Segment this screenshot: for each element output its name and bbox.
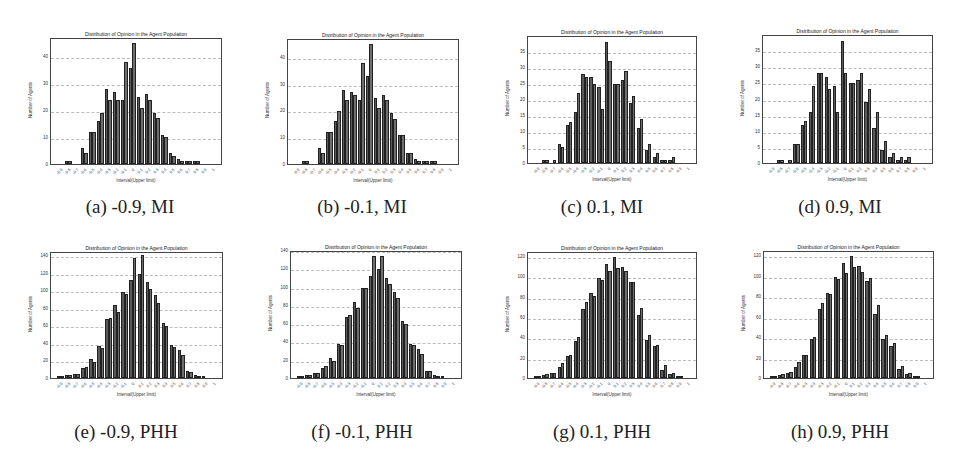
bar [348,315,351,379]
y-axis-label: Number of Agents [265,82,270,118]
bar [433,161,436,164]
bar [329,132,332,164]
y-tick-label: 60 [511,315,525,320]
bar [125,294,128,378]
bar [892,153,895,163]
y-axis-label: Number of Agents [505,80,510,116]
bar [561,147,564,163]
bar [188,161,191,164]
x-axis-label: Interval(Upper limit) [287,178,459,183]
y-tick-label: 10 [271,135,285,140]
bar [141,255,144,378]
y-tick-label: 120 [747,253,761,258]
chart-title: Distribution of Opinion in the Agent Pop… [527,29,697,35]
gridline [763,52,932,53]
chart-title: Distribution of Opinion in the Agent Pop… [50,31,222,37]
gridline [291,362,461,363]
y-tick-label: 40 [511,335,525,340]
bar [804,121,807,163]
bar [648,144,651,163]
bar [202,376,205,378]
bar [656,345,659,378]
y-tick-label: 20 [274,358,288,363]
bar [180,161,183,164]
plot-area-d [762,35,933,164]
bar [100,113,103,164]
bar [380,256,383,378]
y-tick-label: 0 [274,376,288,381]
bar [664,160,667,163]
y-axis-label: Number of Agents [741,295,746,331]
gridline [51,112,221,113]
bar [844,73,847,163]
y-tick-label: 5 [746,145,760,150]
bar [608,61,611,163]
chart-title: Distribution of Opinion in the Agent Pop… [287,32,459,38]
y-tick-label: 25 [511,81,525,86]
gridline [51,85,221,86]
y-tick-label: 5 [511,145,525,150]
bar [624,71,627,163]
y-tick-label: 60 [274,321,288,326]
bar [821,303,824,378]
y-tick-label: 35 [511,49,525,54]
y-tick-label: 100 [274,285,288,290]
y-tick-label: 10 [34,135,48,140]
bar [92,132,95,164]
bar [305,161,308,164]
gridline [528,69,696,70]
bar [84,153,87,164]
bar [813,337,816,378]
bar [877,305,880,378]
bar [608,271,611,378]
bar [117,312,120,378]
bar [156,118,159,164]
y-tick-label: 35 [746,48,760,53]
gridline [51,327,222,328]
bar [885,335,888,378]
x-axis-label: Interval(Upper limit) [762,177,933,182]
bar [361,63,364,164]
bar [60,376,63,378]
bar [93,362,96,379]
caption-c: (c) 0.1, MI [502,196,702,218]
gridline [528,101,696,102]
gridline [51,257,222,258]
bar [796,144,799,163]
bar [624,271,627,378]
chart-title: Distribution of Opinion in the Agent Pop… [527,245,697,251]
bar [916,376,919,378]
y-tick-label: 30 [34,81,48,86]
y-axis-label: Number of Agents [28,81,33,117]
bar [585,77,588,163]
caption-g: (g) 0.1, PHH [502,421,702,443]
bar [140,108,143,164]
bar [640,308,643,378]
bar [672,157,675,163]
gridline [288,86,458,87]
bar [537,376,540,378]
bar [116,100,119,164]
y-tick-label: 20 [34,108,48,113]
caption-f: (f) -0.1, PHH [262,421,462,443]
bar [436,376,439,378]
y-tick-label: 100 [34,288,48,293]
bar [545,374,548,378]
gridline [51,139,221,140]
y-axis-label: Number of Agents [505,295,510,331]
gridline [51,58,221,59]
gridline [528,117,696,118]
bar [569,122,572,163]
y-axis-label: Number of Agents [740,79,745,115]
caption-b: (b) -0.1, MI [262,196,462,218]
gridline [528,319,696,320]
bar [300,376,303,378]
bar [157,303,160,378]
plot-area-h [763,251,934,379]
bar [181,355,184,378]
bar [640,119,643,163]
gridline [291,307,461,308]
bar [428,371,431,378]
y-tick-label: 20 [746,97,760,102]
bar [672,373,675,378]
